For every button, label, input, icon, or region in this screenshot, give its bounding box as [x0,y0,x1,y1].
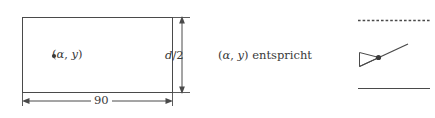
wedge-marked-point [376,55,381,60]
correspondence-caption: (α, y) entspricht [218,48,312,62]
two-symbol: 2 [176,48,183,62]
comma: , [64,47,71,61]
caption-verb: entspricht [252,48,312,62]
width-dimension-label: 90 [91,93,112,107]
paren-close: ) [78,47,83,61]
caption-comma: , [230,48,237,62]
diagonal-ray [360,44,409,67]
math-figure: (α, y) d/2 90 (α, y) entspricht [0,0,435,118]
height-dimension-label: d/2 [165,48,184,62]
wedge-schematic [358,21,430,89]
rectangle-shape [23,18,173,93]
interior-point-label: (α, y) [52,47,83,61]
